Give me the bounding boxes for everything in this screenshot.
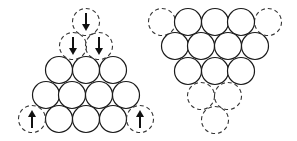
- solid-circle-row2-4: [242, 33, 269, 60]
- solid-circle-row2-3: [215, 33, 242, 60]
- dashed-circle-top-left: [149, 9, 176, 36]
- dashed-circle-bottom: [202, 107, 229, 134]
- right-figure-inverted-stack: [149, 9, 282, 134]
- arrow-down-icon-second-right: [95, 37, 103, 55]
- left-figure-upright-stack: [19, 9, 154, 133]
- arrow-down-icon-second-left: [69, 37, 77, 55]
- solid-circle-row1-2: [202, 9, 229, 36]
- dashed-circle-lower-right: [215, 83, 242, 110]
- solid-circle-row1-3: [100, 57, 127, 84]
- solid-circle-row3-1: [175, 58, 202, 85]
- solid-circle-row2-3: [86, 82, 113, 109]
- arrow-down-icon-top: [82, 13, 90, 31]
- solid-circle-row1-1: [46, 57, 73, 84]
- solid-circle-row1-3: [228, 9, 255, 36]
- solid-circle-row3-3: [228, 58, 255, 85]
- solid-circle-row1-2: [73, 57, 100, 84]
- solid-circle-row3-2: [73, 106, 100, 133]
- solid-circle-row3-2: [202, 58, 229, 85]
- solid-circle-row1-1: [175, 9, 202, 36]
- arrow-up-icon-bottom-left: [28, 110, 36, 128]
- solid-circle-row2-2: [188, 33, 215, 60]
- arrow-up-icon-bottom-right: [136, 110, 144, 128]
- solid-circle-row3-1: [46, 106, 73, 133]
- dashed-circle-top-right: [255, 9, 282, 36]
- solid-circle-row2-4: [113, 82, 140, 109]
- solid-circle-row2-2: [59, 82, 86, 109]
- solid-circle-row3-3: [100, 106, 127, 133]
- dashed-circle-lower-left: [188, 83, 215, 110]
- solid-circle-row2-1: [33, 82, 60, 109]
- sphere-packing-diagram: [0, 0, 297, 141]
- solid-circle-row2-1: [162, 33, 189, 60]
